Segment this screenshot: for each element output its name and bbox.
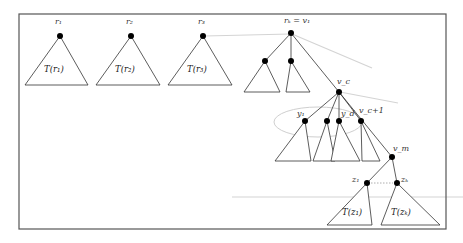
node-r1 <box>57 33 63 39</box>
node-vc1 <box>358 118 364 124</box>
subtree-triangle <box>361 121 380 161</box>
label-vm: v_m <box>393 144 410 153</box>
node-r2 <box>128 33 134 39</box>
subtree-label-z1: T(z₁) <box>342 207 362 217</box>
subtree-triangle <box>331 121 360 161</box>
subtree-label-r1: T(r₁) <box>44 64 64 74</box>
node-vc <box>336 89 342 95</box>
node-vc-child <box>324 118 330 124</box>
node-zk <box>394 180 400 186</box>
root-tree-r1: r₁ T(r₁) <box>25 17 88 85</box>
label-r1: r₁ <box>55 17 62 26</box>
faint-connector-r3-v1 <box>205 34 290 36</box>
label-zk: zₖ <box>400 175 408 184</box>
node-yd <box>336 118 342 124</box>
faint-connector-v1 <box>292 34 372 68</box>
subtree-label-r3: T(r₃) <box>187 64 207 74</box>
label-r3: r₃ <box>198 17 205 26</box>
subtree-label-r2: T(r₂) <box>115 64 135 74</box>
node-vm <box>389 154 395 160</box>
subtree-triangle <box>275 121 311 161</box>
node-y1 <box>302 118 308 124</box>
subtree-triangle <box>286 61 310 92</box>
node-v1-child <box>262 58 268 64</box>
node-r3 <box>200 33 206 39</box>
subtree-triangle <box>244 61 280 92</box>
subtree-triangle-zk <box>381 183 440 225</box>
node-z1 <box>364 180 370 186</box>
label-z1: z₁ <box>351 175 359 184</box>
node-v1 <box>288 30 294 36</box>
subtree-label-zk: T(zₖ) <box>391 207 411 217</box>
subtree-triangle <box>168 36 232 85</box>
subtree-triangle <box>96 36 160 85</box>
label-vc: v_c <box>337 77 351 86</box>
label-y1: y₁ <box>296 109 305 118</box>
subtree-triangle-z1 <box>327 183 372 225</box>
faint-connector-vc <box>340 92 398 103</box>
label-yd: y_d <box>340 109 355 118</box>
label-v1: rₖ = v₁ <box>284 16 310 25</box>
node-v1-child <box>288 58 294 64</box>
label-vc1: v_c+1 <box>359 106 384 115</box>
root-tree-r3: r₃ T(r₃) <box>168 17 232 85</box>
subtree-triangle <box>25 36 88 85</box>
root-tree-r2: r₂ T(r₂) <box>96 17 160 85</box>
path-tree: rₖ = v₁ v_c y₁ y_d v_c+1 v_m z₁ zₖ T(z₁)… <box>244 16 440 225</box>
subtree-triangle <box>313 121 335 161</box>
tree-diagram: r₁ T(r₁) r₂ T(r₂) r₃ T(r₃) <box>0 0 463 243</box>
label-r2: r₂ <box>126 17 133 26</box>
